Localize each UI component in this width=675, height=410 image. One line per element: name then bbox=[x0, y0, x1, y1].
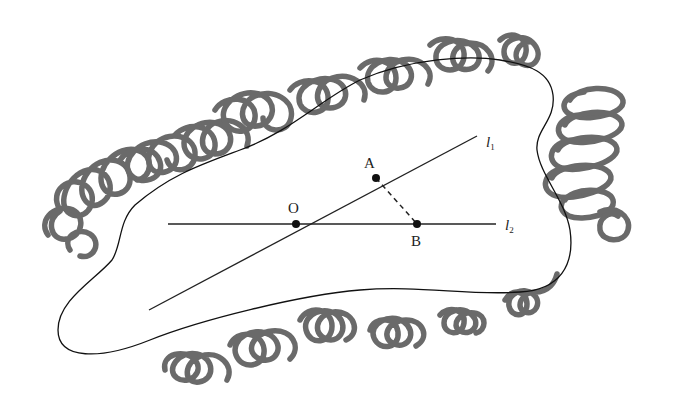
point-a bbox=[372, 174, 380, 182]
label-l2: l2 bbox=[505, 217, 514, 235]
diagram-canvas: O A B l1 l2 bbox=[0, 0, 675, 410]
point-b bbox=[413, 220, 421, 228]
segment-ab bbox=[376, 178, 417, 224]
scribble-right bbox=[545, 88, 628, 239]
label-o: O bbox=[288, 200, 299, 216]
scribble-top bbox=[215, 35, 538, 131]
label-l1: l1 bbox=[486, 134, 495, 152]
line-l1 bbox=[149, 136, 477, 310]
label-b: B bbox=[411, 233, 421, 249]
label-a: A bbox=[364, 155, 375, 171]
point-o bbox=[292, 220, 300, 228]
scribble-top-left bbox=[45, 121, 248, 257]
